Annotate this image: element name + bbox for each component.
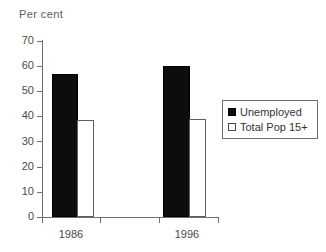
y-axis-label-30: 30 [8,136,34,147]
y-tick-20 [37,167,42,168]
y-axis-label-0: 0 [8,211,34,222]
bar-unemployed-1996 [163,66,190,217]
y-tick-10 [37,192,42,193]
y-tick-40 [37,116,42,117]
x-axis-line [42,217,219,218]
y-tick-70 [37,41,42,42]
y-axis-line [42,40,43,218]
y-tick-60 [37,66,42,67]
y-axis-label-60: 60 [8,60,34,71]
x-axis-label-1986: 1986 [43,228,99,240]
y-axis-title: Per cent [19,8,63,20]
bar-chart: Per cent 70 60 50 40 30 20 10 0 1986 199… [0,0,326,252]
x-tick-mid [100,218,101,223]
x-tick-start [42,218,43,223]
chart-legend: Unemployed Total Pop 15+ [222,100,318,139]
hollow-square-icon [228,123,236,131]
x-tick-end [218,218,219,223]
y-tick-50 [37,91,42,92]
bar-total-pop-1986 [77,120,94,217]
legend-label-total-pop: Total Pop 15+ [240,121,308,133]
y-tick-30 [37,141,42,142]
x-axis-label-1996: 1996 [159,228,215,240]
y-axis-label-50: 50 [8,85,34,96]
legend-item-total-pop: Total Pop 15+ [228,120,312,133]
bar-total-pop-1996 [189,119,206,217]
y-axis-label-10: 10 [8,186,34,197]
y-axis-label-70: 70 [8,35,34,46]
bar-unemployed-1986 [52,74,78,217]
y-axis-label-20: 20 [8,161,34,172]
legend-item-unemployed: Unemployed [228,105,312,118]
filled-square-icon [228,108,236,116]
x-tick-mid-2 [159,218,160,223]
legend-label-unemployed: Unemployed [240,106,302,118]
y-axis-label-40: 40 [8,110,34,121]
